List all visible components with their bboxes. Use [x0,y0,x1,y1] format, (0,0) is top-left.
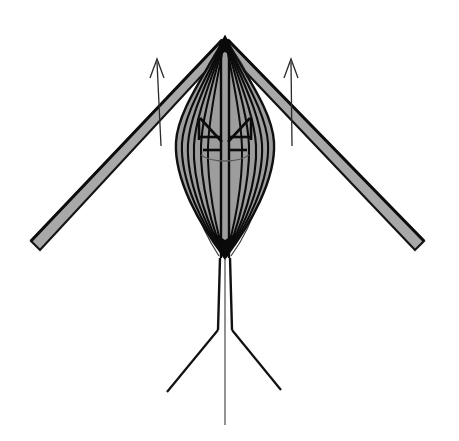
figure-canvas: Symmetric technical line drawing of a ki… [0,0,459,441]
technical-line-drawing [0,0,459,441]
